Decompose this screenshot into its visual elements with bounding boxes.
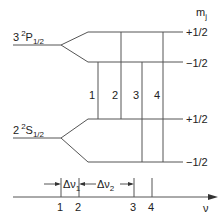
mj-label: +1/2 — [186, 113, 208, 125]
mj-header: mj — [196, 6, 207, 21]
delta-nu-2: Δν2 — [97, 178, 115, 193]
tick-label: 4 — [148, 201, 154, 213]
arrow-right-icon — [208, 194, 218, 200]
spectrum-axis: 1 2 3 4 ν Δν1 Δν2 — [13, 178, 218, 214]
mj-label: −1/2 — [186, 57, 208, 69]
nu-axis-label: ν — [203, 202, 209, 214]
tick-label: 2 — [75, 201, 81, 213]
mj-label: +1/2 — [186, 26, 208, 38]
transition-label: 4 — [154, 89, 160, 101]
transition-label: 3 — [133, 89, 139, 101]
lower-level: 22S1/2 — [13, 119, 183, 162]
arrow-right-icon — [128, 182, 134, 186]
arrow-right-icon — [55, 182, 61, 186]
tick-label: 3 — [130, 201, 136, 213]
tick-label: 1 — [57, 201, 63, 213]
transition-label: 2 — [112, 89, 118, 101]
delta-nu-1: Δν1 — [63, 178, 81, 193]
upper-level-label: 32P1/2 — [13, 29, 45, 46]
transition-label: 1 — [89, 89, 95, 101]
energy-level-diagram: mj 32P1/2 22S1/2 +1/2 −1/2 +1/2 −1/2 1 2… — [0, 0, 223, 219]
transitions: 1 2 3 4 — [89, 32, 163, 162]
lower-level-label: 22S1/2 — [13, 122, 45, 139]
mj-label: −1/2 — [186, 156, 208, 168]
upper-level: 32P1/2 — [13, 29, 183, 62]
